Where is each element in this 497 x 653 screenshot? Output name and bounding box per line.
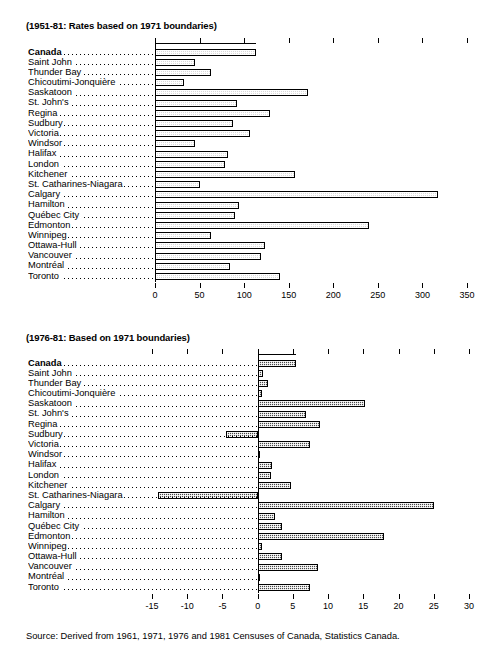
x-tick-label: -15: [132, 601, 172, 611]
x-tick-label: -10: [167, 601, 207, 611]
x-tick-label: 350: [447, 290, 487, 300]
x-tick-top: [469, 349, 470, 354]
x-tick-top: [328, 349, 329, 354]
x-tick-top: [422, 38, 423, 43]
x-tick-label: -5: [202, 601, 242, 611]
x-tick-label: 15: [343, 601, 383, 611]
x-tick-top: [363, 349, 364, 354]
chart-1-title: (1951-81: Rates based on 1971 boundaries…: [26, 20, 217, 31]
x-tick-label: 50: [180, 290, 220, 300]
x-tick-label: 20: [379, 601, 419, 611]
chart-panel-2: (1976-81: Based on 1971 boundaries) Cana…: [0, 330, 497, 630]
x-tick-top: [399, 349, 400, 354]
x-tick: [469, 594, 470, 599]
label-leader-dots: [28, 419, 258, 429]
zero-axis-line: [155, 43, 156, 282]
x-tick: [289, 283, 290, 288]
label-leader-dots: [28, 470, 258, 480]
x-tick: [258, 594, 259, 599]
chart-2-title: (1976-81: Based on 1971 boundaries): [26, 332, 190, 343]
x-tick: [328, 594, 329, 599]
x-tick-top: [289, 38, 290, 43]
x-tick-label: 0: [135, 290, 175, 300]
x-tick-top: [333, 38, 334, 43]
label-leader-dots: [28, 460, 258, 470]
x-tick: [222, 594, 223, 599]
top-axis-segment: [258, 354, 297, 355]
x-tick: [293, 594, 294, 599]
x-tick-top: [152, 349, 153, 354]
x-tick-label: 150: [269, 290, 309, 300]
x-tick: [399, 594, 400, 599]
x-tick-label: 30: [449, 601, 489, 611]
x-tick: [200, 283, 201, 288]
label-leader-dots: [28, 501, 258, 511]
x-tick: [244, 283, 245, 288]
x-tick-label: 300: [402, 290, 442, 300]
label-leader-dots: [28, 440, 258, 450]
x-tick: [467, 283, 468, 288]
x-tick-top: [378, 38, 379, 43]
x-tick-label: 10: [308, 601, 348, 611]
x-tick-label: 25: [414, 601, 454, 611]
x-tick-top: [467, 38, 468, 43]
x-tick: [187, 594, 188, 599]
x-tick-label: 200: [313, 290, 353, 300]
x-tick: [333, 283, 334, 288]
x-tick-top: [187, 349, 188, 354]
x-tick: [152, 594, 153, 599]
x-tick: [422, 283, 423, 288]
x-tick-label: 250: [358, 290, 398, 300]
x-tick: [434, 594, 435, 599]
x-tick-top: [434, 349, 435, 354]
x-tick: [155, 283, 156, 288]
top-axis-segment: [155, 43, 256, 44]
x-tick: [363, 594, 364, 599]
x-tick-top: [222, 349, 223, 354]
label-leader-dots: [28, 582, 258, 592]
x-tick-label: 100: [224, 290, 264, 300]
chart-panel-1: (1951-81: Rates based on 1971 boundaries…: [0, 0, 497, 320]
x-tick-label: 0: [238, 601, 278, 611]
x-tick-label: 5: [273, 601, 313, 611]
x-tick: [378, 283, 379, 288]
source-note: Source: Derived from 1961, 1971, 1976 an…: [26, 631, 400, 641]
